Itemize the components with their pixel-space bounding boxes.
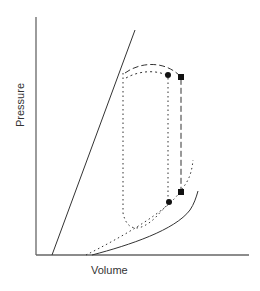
x-axis-label: Volume <box>91 264 128 276</box>
solid-curve <box>92 191 198 255</box>
dashed-loop <box>125 64 181 192</box>
dotted-loop <box>123 73 168 228</box>
y-axis-label: Pressure <box>14 83 26 127</box>
bottom-circle-marker <box>166 199 172 205</box>
steep-solid-line <box>52 30 135 255</box>
pv-diagram: Pressure Volume <box>0 0 260 291</box>
dotted-loop-top <box>126 72 168 78</box>
bottom-square-marker <box>178 189 184 195</box>
top-circle-marker <box>165 72 171 78</box>
top-square-marker <box>178 74 184 80</box>
